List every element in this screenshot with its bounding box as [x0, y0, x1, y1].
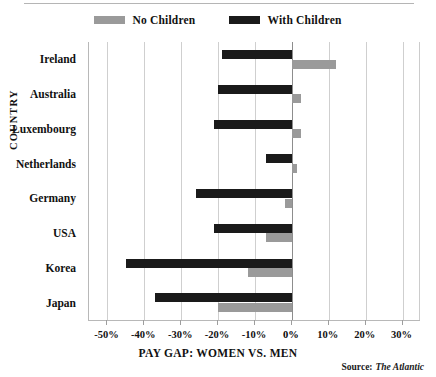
- bar-luxembourg-with-children: [214, 120, 291, 129]
- x-tick-30: [402, 320, 403, 325]
- x-tick--40: [143, 320, 144, 325]
- x-tick-10: [328, 320, 329, 325]
- bar-germany-no-children: [285, 199, 292, 208]
- bar-usa-no-children: [266, 233, 292, 242]
- x-tick-0: [291, 320, 292, 325]
- x-axis-label-20: 20%: [354, 329, 375, 340]
- bar-group: [89, 285, 419, 320]
- x-tick-20: [365, 320, 366, 325]
- source-name: The Atlantic: [376, 362, 424, 372]
- bar-luxembourg-no-children: [292, 129, 301, 138]
- bar-group: [89, 181, 419, 216]
- bar-ireland-with-children: [222, 50, 292, 59]
- x-axis-label-30: 30%: [391, 329, 412, 340]
- bar-japan-no-children: [218, 303, 292, 312]
- y-axis-label-korea: Korea: [46, 251, 76, 286]
- bar-group: [89, 216, 419, 251]
- bar-korea-with-children: [126, 259, 292, 268]
- source-prefix: Source:: [342, 362, 373, 372]
- legend-item-with-children: With Children: [229, 14, 341, 26]
- bar-ireland-no-children: [292, 60, 336, 69]
- bar-japan-with-children: [155, 293, 291, 302]
- x-axis-label--50: -50%: [94, 329, 119, 340]
- legend-label-no-children: No Children: [132, 14, 195, 26]
- chart-legend: No Children With Children: [0, 14, 436, 26]
- pay-gap-chart: No Children With Children COUNTRY Irelan…: [0, 0, 436, 377]
- source-note: Source:The Atlantic: [342, 362, 424, 372]
- bar-korea-no-children: [248, 268, 292, 277]
- bar-group: [89, 146, 419, 181]
- x-tick--10: [254, 320, 255, 325]
- plot-area: [88, 42, 420, 320]
- bar-group: [89, 77, 419, 112]
- y-axis-label-japan: Japan: [46, 285, 76, 320]
- bar-germany-with-children: [196, 189, 292, 198]
- x-tick--20: [217, 320, 218, 325]
- legend-item-no-children: No Children: [94, 14, 195, 26]
- legend-swatch-with-children-icon: [229, 16, 260, 24]
- x-axis-title: PAY GAP: WOMEN VS. MEN: [0, 347, 436, 359]
- x-axis-label--40: -40%: [131, 329, 156, 340]
- x-axis-label--30: -30%: [168, 329, 193, 340]
- bar-usa-with-children: [214, 224, 291, 233]
- bar-australia-with-children: [218, 85, 292, 94]
- bar-netherlands-with-children: [266, 154, 292, 163]
- x-axis-label-10: 10%: [317, 329, 338, 340]
- y-axis-label-usa: USA: [53, 216, 76, 251]
- header-divider: [24, 3, 414, 4]
- y-axis-label-ireland: Ireland: [40, 42, 76, 77]
- bar-group: [89, 251, 419, 286]
- x-axis-label--20: -20%: [205, 329, 230, 340]
- x-tick--50: [106, 320, 107, 325]
- bar-netherlands-no-children: [292, 164, 298, 173]
- y-axis-label-netherlands: Netherlands: [16, 146, 76, 181]
- x-axis-label-0: 0%: [283, 329, 299, 340]
- y-axis-label-australia: Australia: [30, 77, 76, 112]
- y-axis-label-germany: Germany: [29, 181, 76, 216]
- x-axis-label--10: -10%: [242, 329, 267, 340]
- y-axis-label-luxembourg: Luxembourg: [12, 112, 76, 147]
- legend-label-with-children: With Children: [267, 14, 341, 26]
- bar-group: [89, 112, 419, 147]
- y-axis-labels: IrelandAustraliaLuxembourgNetherlandsGer…: [0, 42, 84, 320]
- legend-swatch-no-children-icon: [94, 16, 125, 24]
- x-tick--30: [180, 320, 181, 325]
- bar-australia-no-children: [292, 94, 301, 103]
- bar-group: [89, 42, 419, 77]
